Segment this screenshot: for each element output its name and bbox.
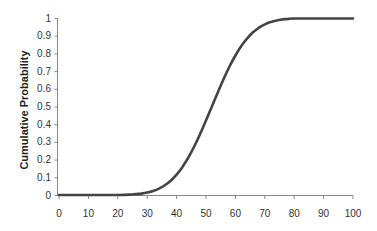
y-tick-label: 0	[45, 190, 51, 201]
y-tick-label: 0.6	[37, 83, 51, 94]
y-tick-label: 0.3	[37, 136, 51, 147]
x-tick-label: 10	[83, 208, 95, 219]
x-tick-label: 40	[171, 208, 183, 219]
y-ticks: 00.10.20.30.40.50.60.70.80.91	[37, 13, 57, 201]
x-tick-label: 100	[345, 208, 362, 219]
y-tick-label: 0.4	[37, 119, 51, 130]
x-axis: 0102030405060708090100	[56, 196, 362, 220]
x-tick-label: 0	[56, 208, 62, 219]
y-tick-label: 0.8	[37, 48, 51, 59]
y-tick-label: 0.1	[37, 172, 51, 183]
y-tick-label: 0.9	[37, 30, 51, 41]
x-ticks: 0102030405060708090100	[56, 196, 362, 220]
cdf-curve	[59, 19, 353, 196]
y-tick-label: 1	[45, 13, 51, 24]
x-tick-label: 70	[259, 208, 271, 219]
y-tick-label: 0.2	[37, 154, 51, 165]
y-axis: 00.10.20.30.40.50.60.70.80.91	[37, 13, 57, 201]
x-tick-label: 50	[200, 208, 212, 219]
y-tick-label: 0.7	[37, 66, 51, 77]
x-tick-label: 30	[142, 208, 154, 219]
x-tick-label: 60	[230, 208, 242, 219]
y-axis-title: Cumulative Probability	[18, 50, 30, 170]
cumulative-probability-chart: 00.10.20.30.40.50.60.70.80.91 0102030405…	[0, 0, 377, 231]
x-tick-label: 20	[112, 208, 124, 219]
y-tick-label: 0.5	[37, 101, 51, 112]
x-tick-label: 90	[318, 208, 330, 219]
x-tick-label: 80	[289, 208, 301, 219]
